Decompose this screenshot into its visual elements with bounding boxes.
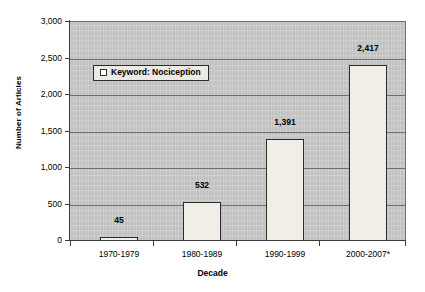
y-axis-title: Number of Articles bbox=[14, 63, 23, 163]
y-tick-label-2500: 2,500 bbox=[41, 53, 62, 63]
x-tick-mark-0 bbox=[70, 241, 71, 246]
y-tick-mark-500 bbox=[65, 204, 70, 205]
bar-value-label-2000-2007: 2,417 bbox=[357, 43, 378, 53]
y-tick-mark-1000 bbox=[65, 167, 70, 168]
y-tick-mark-3000 bbox=[65, 21, 70, 22]
bar-value-label-1970-1979: 45 bbox=[114, 215, 123, 225]
y-tick-mark-2000 bbox=[65, 94, 70, 95]
plot-area bbox=[70, 21, 406, 241]
x-axis-title: Decade bbox=[0, 268, 425, 278]
y-tick-label-1000: 1,000 bbox=[41, 162, 62, 172]
legend-entry-label: Keyword: Nociception bbox=[111, 68, 201, 77]
y-tick-mark-2500 bbox=[65, 58, 70, 59]
chart-legend: Keyword: Nociception bbox=[93, 65, 209, 81]
bar-1980-1989 bbox=[183, 202, 221, 241]
x-tick-mark-1 bbox=[153, 241, 154, 246]
legend-swatch-icon bbox=[100, 69, 107, 76]
y-tick-label-2000: 2,000 bbox=[41, 89, 62, 99]
bar-2000-2007 bbox=[349, 65, 387, 241]
x-axis-line bbox=[69, 240, 406, 241]
bar-chart-figure: Number of Articles 3,000 2,500 2,000 1,5… bbox=[0, 0, 425, 292]
bar-value-label-1980-1989: 532 bbox=[195, 180, 209, 190]
x-tick-label-1980-1989: 1980-1989 bbox=[182, 249, 223, 259]
x-tick-label-2000-2007: 2000-2007* bbox=[346, 249, 390, 259]
y-tick-label-1500: 1,500 bbox=[41, 126, 62, 136]
gridline-2500 bbox=[70, 59, 405, 60]
y-tick-label-0: 0 bbox=[57, 235, 62, 245]
y-tick-label-3000: 3,000 bbox=[41, 16, 62, 26]
x-tick-mark-4 bbox=[405, 241, 406, 246]
bar-1990-1999 bbox=[266, 139, 304, 241]
x-tick-label-1990-1999: 1990-1999 bbox=[265, 249, 306, 259]
x-tick-mark-2 bbox=[236, 241, 237, 246]
y-tick-label-500: 500 bbox=[48, 199, 62, 209]
x-tick-mark-3 bbox=[319, 241, 320, 246]
y-tick-mark-1500 bbox=[65, 131, 70, 132]
bar-value-label-1990-1999: 1,391 bbox=[274, 117, 295, 127]
x-tick-label-1970-1979: 1970-1979 bbox=[99, 249, 140, 259]
